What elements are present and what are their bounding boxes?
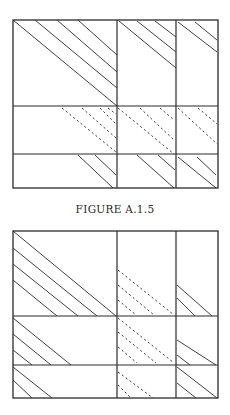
solid-diagonal [13,231,116,316]
solid-diagonal [13,380,32,398]
dashed-diagonal [118,318,174,363]
solid-diagonal [13,367,52,398]
dashed-diagonal [118,285,154,315]
figure-second-diagram [0,0,230,415]
solid-diagonal [13,264,78,316]
solid-diagonal [177,355,190,365]
solid-diagonal [177,298,195,316]
dashed-diagonal [118,372,153,398]
solid-diagonal [13,280,57,316]
solid-diagonal [177,340,216,365]
solid-diagonal [177,367,217,398]
dashed-diagonal [118,300,136,315]
dashed-diagonal [118,385,131,398]
solid-diagonal [13,248,97,316]
solid-diagonal [177,383,196,398]
solid-diagonal [13,334,51,365]
solid-diagonal [177,285,212,316]
dashed-diagonal [118,347,137,363]
dashed-diagonal [118,332,156,363]
solid-diagonal [13,350,32,365]
